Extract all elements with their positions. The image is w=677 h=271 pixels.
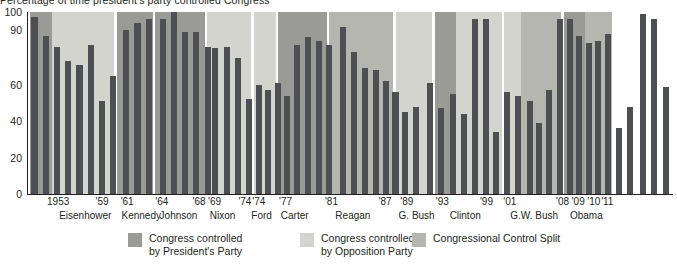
y-axis-tick-20: 20 xyxy=(10,153,22,163)
x-axis-year-label: '74 xyxy=(252,196,265,207)
bar xyxy=(557,19,563,194)
bar xyxy=(493,132,499,194)
x-axis-president-obama: Obama xyxy=(570,210,603,221)
bar xyxy=(450,94,456,194)
bar xyxy=(461,114,467,194)
x-axis-president-ford: Ford xyxy=(251,210,272,221)
legend-label: Congress controlled by Opposition Party xyxy=(321,232,414,257)
y-axis: 100906040200 xyxy=(0,12,26,194)
bar xyxy=(182,32,188,194)
x-axis-year-label: '99 xyxy=(480,196,493,207)
legend-item-president-party[interactable]: Congress controlled by President's Party xyxy=(128,232,242,257)
bar xyxy=(123,30,129,194)
bar xyxy=(76,65,82,194)
x-axis-president-reagan: Reagan xyxy=(335,210,370,221)
x-axis-president-clinton: Clinton xyxy=(450,210,481,221)
x-axis-president-nixon: Nixon xyxy=(210,210,236,221)
x-axis-year-label: '59 xyxy=(96,196,109,207)
y-axis-tick-100: 100 xyxy=(4,7,22,17)
x-axis-year-label: 1953 xyxy=(47,196,69,207)
bar xyxy=(567,19,573,194)
bar xyxy=(616,128,622,194)
bar xyxy=(663,87,669,194)
bar xyxy=(235,58,241,195)
bar xyxy=(651,19,657,194)
x-axis-president-carter: Carter xyxy=(281,210,309,221)
bar xyxy=(205,47,211,194)
x-axis-president-johnson: Johnson xyxy=(160,210,198,221)
bar xyxy=(99,101,105,194)
legend-swatch-icon xyxy=(412,233,426,247)
bar xyxy=(316,41,322,194)
bar xyxy=(171,12,177,194)
legend-swatch-icon xyxy=(300,233,314,247)
bar xyxy=(536,123,542,194)
x-axis-year-label: '77 xyxy=(279,196,292,207)
legend-label: Congress controlled by President's Party xyxy=(149,232,242,257)
bar xyxy=(110,76,116,194)
y-axis-tick-60: 60 xyxy=(10,80,22,90)
bar xyxy=(351,52,357,194)
legend-item-control-split[interactable]: Congressional Control Split xyxy=(412,232,560,247)
bar xyxy=(527,101,533,194)
legend-swatch-icon xyxy=(128,233,142,247)
x-axis-president-g-w-bush: G.W. Bush xyxy=(510,210,558,221)
bar xyxy=(305,37,311,194)
bar xyxy=(193,32,199,194)
x-axis-president-kennedy: Kennedy xyxy=(122,210,161,221)
bar xyxy=(427,83,433,194)
x-axis-year-label: '74 xyxy=(238,196,251,207)
bar xyxy=(586,43,592,194)
x-axis-year-label: '68 xyxy=(192,196,205,207)
chart-title: Percentage of time president's party con… xyxy=(0,0,270,6)
legend: Congress controlled by President's Party… xyxy=(0,232,677,270)
bar xyxy=(515,96,521,194)
x-axis-year-label: '69 xyxy=(208,196,221,207)
x-axis-line xyxy=(27,194,673,195)
bar xyxy=(256,85,262,194)
bar xyxy=(326,45,332,194)
legend-item-opposition-party[interactable]: Congress controlled by Opposition Party xyxy=(300,232,414,257)
bar xyxy=(340,27,346,194)
plot-area xyxy=(28,12,673,194)
bar xyxy=(362,68,368,194)
y-axis-tick-90: 90 xyxy=(10,25,22,35)
bar xyxy=(294,45,300,194)
y-axis-tick-40: 40 xyxy=(10,116,22,126)
bar xyxy=(392,92,398,194)
x-axis-president-eisenhower: Eisenhower xyxy=(59,210,111,221)
bar xyxy=(576,36,582,194)
bar xyxy=(31,17,37,194)
bar xyxy=(88,45,94,194)
bar xyxy=(504,92,510,194)
bar xyxy=(134,23,140,194)
bar xyxy=(65,61,71,194)
bar xyxy=(383,81,389,194)
legend-label: Congressional Control Split xyxy=(433,232,560,245)
bar xyxy=(605,34,611,194)
x-axis-year-label: '64 xyxy=(155,196,168,207)
x-axis-year-label: '11 xyxy=(601,196,613,207)
bar xyxy=(265,90,271,194)
bar xyxy=(160,19,166,194)
bar xyxy=(373,70,379,194)
bar xyxy=(627,107,633,194)
x-axis-president-g-bush: G. Bush xyxy=(399,210,435,221)
x-axis-year-label: '81 xyxy=(325,196,338,207)
x-axis-year-label: '61 xyxy=(121,196,134,207)
x-axis-president-labels: EisenhowerKennedyJohnsonNixonFordCarterR… xyxy=(0,210,677,224)
x-axis-year-label: '10 xyxy=(587,196,600,207)
bar xyxy=(595,41,601,194)
bar xyxy=(640,14,646,194)
bar xyxy=(54,47,60,194)
bar xyxy=(146,19,152,194)
bar xyxy=(438,108,444,194)
x-axis-year-label: '93 xyxy=(436,196,449,207)
bar xyxy=(246,99,252,194)
bar xyxy=(472,19,478,194)
x-axis-year-label: '01 xyxy=(503,196,516,207)
bar xyxy=(546,90,552,194)
x-axis-year-labels: 1953'59'61'64'68'69'74'74'77'81'87'89'93… xyxy=(0,196,677,210)
bar xyxy=(212,48,218,194)
bar xyxy=(413,107,419,194)
